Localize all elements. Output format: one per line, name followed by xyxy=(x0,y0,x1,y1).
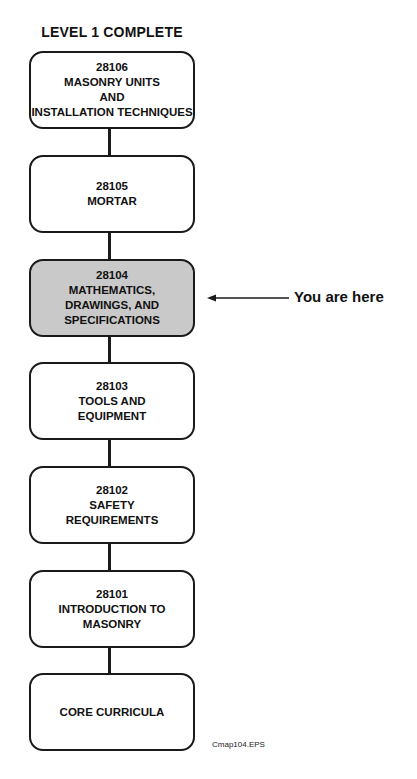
module-box-core-curricula: CORE CURRICULA xyxy=(29,673,195,751)
module-box-28102: 28102SAFETYREQUIREMENTS xyxy=(29,466,195,544)
module-box-28106: 28106MASONRY UNITSANDINSTALLATION TECHNI… xyxy=(29,51,195,129)
module-code: 28105 xyxy=(96,179,128,194)
connector-line xyxy=(108,440,111,466)
module-title-line: INTRODUCTION TO xyxy=(58,602,165,617)
module-title-line: TOOLS AND xyxy=(78,394,145,409)
connector-line xyxy=(108,233,111,259)
module-title-line: REQUIREMENTS xyxy=(66,513,159,528)
module-box-28103: 28103TOOLS ANDEQUIPMENT xyxy=(29,362,195,440)
module-title-line: CORE CURRICULA xyxy=(60,705,165,720)
connector-line xyxy=(108,129,111,155)
connector-line xyxy=(108,648,111,673)
module-code: 28103 xyxy=(96,379,128,394)
module-box-28105: 28105MORTAR xyxy=(29,155,195,233)
module-title-line: MASONRY xyxy=(83,617,141,632)
figure-id: Cmap104.EPS xyxy=(212,740,265,749)
module-box-28101: 28101INTRODUCTION TOMASONRY xyxy=(29,570,195,648)
arrow-left-icon xyxy=(207,293,289,303)
module-title-line: DRAWINGS, AND xyxy=(65,298,159,313)
module-title-line: EQUIPMENT xyxy=(78,409,146,424)
module-title-line: MORTAR xyxy=(87,194,137,209)
module-code: 28101 xyxy=(96,587,128,602)
module-code: 28102 xyxy=(96,483,128,498)
module-title-line: MATHEMATICS, xyxy=(69,283,155,298)
connector-line xyxy=(108,337,111,362)
module-box-28104: 28104MATHEMATICS,DRAWINGS, ANDSPECIFICAT… xyxy=(29,259,195,337)
module-code: 28104 xyxy=(96,268,128,283)
connector-line xyxy=(108,544,111,570)
you-are-here-label: You are here xyxy=(294,288,384,305)
module-title-line: SAFETY xyxy=(89,498,134,513)
module-title-line: SPECIFICATIONS xyxy=(64,313,160,328)
diagram-title: LEVEL 1 COMPLETE xyxy=(29,24,195,40)
module-title-line: MASONRY UNITS xyxy=(64,75,160,90)
module-title-line: INSTALLATION TECHNIQUES xyxy=(31,105,192,120)
module-code: 28106 xyxy=(96,60,128,75)
module-title-line: AND xyxy=(100,90,125,105)
